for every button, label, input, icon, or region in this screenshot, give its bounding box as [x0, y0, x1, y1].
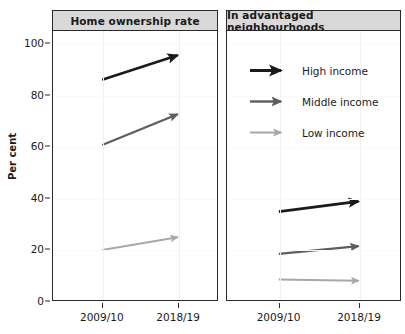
legend-label: Low income [302, 127, 364, 139]
y-axis-title: Per cent [2, 0, 22, 334]
y-tick-label: 40 [31, 192, 44, 204]
vertical-gridline [103, 31, 104, 300]
horizontal-gridline [227, 44, 400, 45]
series-arrow-high-income [279, 201, 359, 211]
y-axis: 020406080100 [20, 0, 52, 334]
x-tick-label: 2009/10 [80, 311, 124, 323]
horizontal-gridline [53, 250, 217, 251]
x-tick-label: 2018/19 [156, 311, 200, 323]
x-axis-left: 2009/102018/19 [52, 303, 218, 327]
panel-in-advantaged-neighbourhoods: In advantaged neighbourhoods [226, 10, 401, 301]
horizontal-gridline [227, 199, 400, 200]
x-tick-mark [279, 303, 280, 308]
horizontal-gridline [53, 44, 217, 45]
x-tick-label: 2018/19 [337, 311, 381, 323]
legend-label: Middle income [302, 96, 378, 108]
x-tick-mark [102, 303, 103, 308]
y-tick-mark [45, 301, 50, 302]
x-axis-right: 2009/102018/19 [226, 303, 401, 327]
horizontal-gridline [53, 96, 217, 97]
panel-title: Home ownership rate [70, 15, 199, 27]
x-tick-label: 2009/10 [257, 311, 301, 323]
y-tick-mark [45, 197, 50, 198]
series-arrow-high-income [102, 55, 177, 79]
y-axis-title-text: Per cent [7, 121, 18, 193]
legend-item-middle-income: Middle income [248, 86, 398, 117]
y-tick-label: 20 [31, 243, 44, 255]
panel-home-ownership-rate: Home ownership rate [52, 10, 218, 301]
y-tick-label: 80 [31, 89, 44, 101]
horizontal-gridline [53, 199, 217, 200]
panel-header-home-ownership-rate: Home ownership rate [52, 10, 218, 31]
legend-label: High income [302, 65, 368, 77]
y-tick-mark [45, 42, 50, 43]
legend-arrow-icon [248, 55, 294, 86]
legend-item-low-income: Low income [248, 117, 398, 148]
series-arrow-low-income [102, 237, 177, 250]
plot-area-home-ownership-rate [52, 30, 218, 301]
y-tick-mark [45, 146, 50, 147]
slope-arrow-chart: Per cent 020406080100 Home ownership rat… [0, 0, 405, 334]
legend-item-high-income: High income [248, 55, 398, 86]
legend-arrow-icon [248, 86, 294, 117]
series-arrow-middle-income [102, 114, 177, 145]
y-tick-label: 60 [31, 140, 44, 152]
x-tick-mark [359, 303, 360, 308]
x-tick-mark [178, 303, 179, 308]
horizontal-gridline [53, 147, 217, 148]
y-tick-label: 0 [37, 295, 44, 307]
series-group-left [53, 31, 217, 300]
horizontal-gridline [227, 250, 400, 251]
series-arrow-low-income [279, 280, 359, 281]
vertical-gridline [179, 31, 180, 300]
panel-title: In advantaged neighbourhoods [227, 9, 400, 33]
chart-legend: High incomeMiddle incomeLow income [248, 55, 398, 148]
panel-header-in-advantaged-neighbourhoods: In advantaged neighbourhoods [226, 10, 401, 31]
legend-arrow-icon [248, 117, 294, 148]
y-tick-mark [45, 249, 50, 250]
y-tick-label: 100 [24, 37, 44, 49]
y-tick-mark [45, 94, 50, 95]
